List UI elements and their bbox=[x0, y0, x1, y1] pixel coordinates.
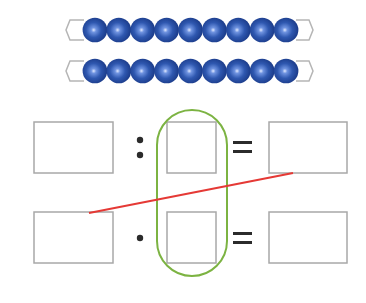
bead-icon bbox=[106, 59, 131, 84]
bead-icon bbox=[202, 18, 227, 43]
connector-line bbox=[89, 173, 293, 213]
bead-icon bbox=[226, 59, 251, 84]
wire-loop-left bbox=[66, 61, 84, 81]
bead-bar-2 bbox=[66, 59, 313, 84]
bead-icon bbox=[154, 18, 179, 43]
answer-box-row2-left[interactable] bbox=[34, 212, 113, 263]
answer-box-row2-right[interactable] bbox=[269, 212, 347, 263]
wire-loop-left bbox=[66, 20, 84, 40]
bead-icon bbox=[274, 59, 299, 84]
bead-icon bbox=[250, 59, 275, 84]
bead-icon bbox=[226, 18, 251, 43]
bead-icon bbox=[83, 18, 108, 43]
bead-icon bbox=[130, 18, 155, 43]
answer-box-row1-left[interactable] bbox=[34, 122, 113, 173]
answer-box-row1-middle[interactable] bbox=[167, 122, 216, 173]
multiplication-operator-icon bbox=[137, 235, 143, 241]
answer-box-row2-middle[interactable] bbox=[167, 212, 216, 263]
division-operator-icon bbox=[137, 137, 143, 158]
wire-loop-right bbox=[296, 20, 313, 40]
bead-icon bbox=[154, 59, 179, 84]
bead-icon bbox=[250, 18, 275, 43]
wire-loop-right bbox=[296, 61, 313, 81]
bead-icon bbox=[178, 59, 203, 84]
bead-icon bbox=[83, 59, 108, 84]
diagram-canvas bbox=[0, 0, 366, 303]
answer-box-row1-right[interactable] bbox=[269, 122, 347, 173]
equals-sign-row1-icon bbox=[233, 141, 252, 153]
equals-sign-row2-icon bbox=[233, 232, 252, 244]
bead-icon bbox=[178, 18, 203, 43]
bead-icon bbox=[106, 18, 131, 43]
bead-icon bbox=[202, 59, 227, 84]
bead-icon bbox=[274, 18, 299, 43]
bead-icon bbox=[130, 59, 155, 84]
bead-bar-1 bbox=[66, 18, 313, 43]
